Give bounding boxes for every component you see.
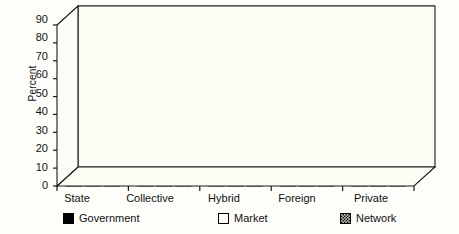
- legend-item-market: Market: [218, 212, 268, 224]
- legend-label: Network: [356, 212, 396, 224]
- legend-item-network: Network: [340, 212, 396, 224]
- x-tick-label-collective: Collective: [112, 192, 188, 204]
- x-tick-label-hybrid: Hybrid: [186, 192, 262, 204]
- hatched-square-icon: [340, 213, 351, 224]
- black-square-icon: [63, 213, 74, 224]
- legend-label: Market: [234, 212, 268, 224]
- legend-label: Government: [79, 212, 140, 224]
- x-tick-label-state: State: [39, 192, 115, 204]
- bar-chart: Percent 90 80 70 60 50 40 30 20 10 0: [0, 0, 459, 234]
- legend-item-government: Government: [63, 212, 140, 224]
- chart-legend: Government Market Network: [0, 211, 459, 229]
- axis-lines: [57, 6, 435, 191]
- x-tick-label-foreign: Foreign: [259, 192, 335, 204]
- white-square-icon: [218, 213, 229, 224]
- x-tick-label-private: Private: [333, 192, 409, 204]
